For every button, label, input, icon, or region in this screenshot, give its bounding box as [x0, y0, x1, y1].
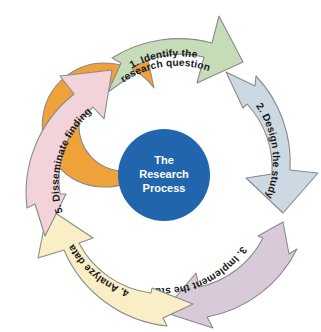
step-4-arrow-analyze-data: 4. Analyze data [38, 208, 193, 326]
cycle-diagram-svg: Evidence-based practice 1. Identify the … [0, 0, 321, 332]
step-5-arrow-disseminate-findings: 5. Disseminate findings [0, 0, 112, 236]
hub-line-2: Research [139, 168, 189, 180]
step-3-arrow-shape [163, 222, 297, 328]
center-hub: The Research Process [118, 129, 210, 221]
step-4-arrow-shape [38, 208, 193, 326]
research-process-diagram: Evidence-based practice 1. Identify the … [0, 0, 321, 332]
step-1-arrow-identify-research-question: 1. Identify the research question [108, 16, 243, 92]
hub-line-1: The [154, 154, 174, 166]
hub-line-3: Process [143, 182, 186, 194]
step-2-arrow-design-the-study: 2. Design the study [226, 72, 318, 213]
